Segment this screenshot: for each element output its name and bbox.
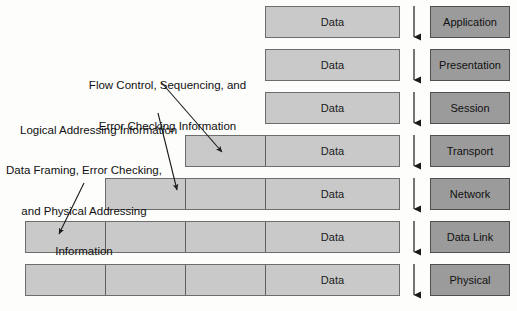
annotation-line-3: Information <box>4 245 164 259</box>
layer-box-transport: Transport <box>430 135 510 167</box>
payload-segment: Data <box>266 136 399 166</box>
data-label: Data <box>321 274 345 286</box>
payload-segment: Data <box>266 265 399 295</box>
layer-box-network: Network <box>430 178 510 210</box>
annotation-line-1: Flow Control, Sequencing, and <box>75 79 260 93</box>
layer-name: Data Link <box>447 231 493 243</box>
layer-name: Physical <box>450 274 491 286</box>
encapsulation-bar-session: Data <box>265 92 400 124</box>
annotation-line-2: and Physical Addressing <box>4 205 164 219</box>
layer-box-session: Session <box>430 92 510 124</box>
layer-box-presentation: Presentation <box>430 49 510 81</box>
payload-segment: Data <box>266 50 399 80</box>
header-segment-transport <box>186 222 266 252</box>
encapsulation-bar-presentation: Data <box>265 49 400 81</box>
annotation-line-1: Logical Addressing Information <box>20 124 210 138</box>
header-segment-transport <box>186 265 266 295</box>
annotation-line-1: Data Framing, Error Checking, <box>4 164 164 178</box>
annotation-data-framing: Data Framing, Error Checking, and Physic… <box>4 137 164 286</box>
data-label: Data <box>321 188 345 200</box>
layer-name: Application <box>443 16 497 28</box>
layer-box-application: Application <box>430 6 510 38</box>
header-segment-transport <box>186 179 266 209</box>
layer-box-physical: Physical <box>430 264 510 296</box>
data-label: Data <box>321 231 345 243</box>
payload-segment: Data <box>266 222 399 252</box>
layer-name: Network <box>450 188 490 200</box>
layer-box-data-link: Data Link <box>430 221 510 253</box>
encapsulation-bar-application: Data <box>265 6 400 38</box>
data-label: Data <box>321 145 345 157</box>
layer-name: Session <box>450 102 489 114</box>
osi-encapsulation-diagram: Data Application Data Presentation Data … <box>0 0 517 311</box>
payload-segment: Data <box>266 7 399 37</box>
data-label: Data <box>321 16 345 28</box>
payload-segment: Data <box>266 93 399 123</box>
payload-segment: Data <box>266 179 399 209</box>
layer-name: Presentation <box>439 59 501 71</box>
layer-name: Transport <box>447 145 494 157</box>
data-label: Data <box>321 59 345 71</box>
data-label: Data <box>321 102 345 114</box>
